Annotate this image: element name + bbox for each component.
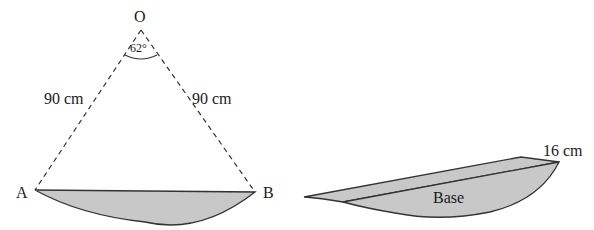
base-label: Base bbox=[433, 189, 464, 206]
circular-segment bbox=[35, 190, 255, 225]
thickness-label: 16 cm bbox=[543, 142, 583, 159]
radius-oa bbox=[35, 30, 141, 190]
vertex-o-label: O bbox=[134, 8, 146, 25]
left-radius-label: 90 cm bbox=[44, 90, 84, 107]
diagram-canvas: O 62° 90 cm 90 cm A B 16 cm Base bbox=[0, 0, 594, 230]
wedge-figure: 16 cm Base bbox=[304, 142, 583, 217]
point-a-label: A bbox=[16, 184, 28, 201]
angle-label: 62° bbox=[130, 41, 147, 55]
angle-arc bbox=[125, 55, 157, 59]
right-radius-label: 90 cm bbox=[192, 90, 232, 107]
sector-figure: O 62° 90 cm 90 cm A B bbox=[16, 8, 274, 225]
point-b-label: B bbox=[263, 184, 274, 201]
radius-ob bbox=[141, 30, 255, 192]
